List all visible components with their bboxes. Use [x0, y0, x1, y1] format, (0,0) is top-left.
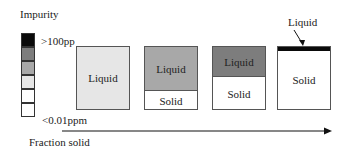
- legend-cell: [21, 103, 35, 117]
- legend-title: Impurity: [20, 9, 59, 20]
- stage-box-1: Liquid: [76, 46, 130, 110]
- solid-region: Solid: [278, 51, 330, 109]
- legend-high-label: >100pp: [41, 36, 75, 47]
- liquid-region: Liquid: [213, 47, 265, 76]
- liquid-region: Liquid: [145, 47, 197, 90]
- legend-cell: [21, 47, 35, 61]
- stage-box-3: Liquid Solid: [212, 46, 266, 110]
- stage-box-4: Solid: [277, 46, 331, 110]
- legend-cell: [21, 61, 35, 75]
- liquid-callout-label: Liquid: [288, 17, 317, 28]
- solid-region: Solid: [213, 76, 265, 110]
- legend-low-label: <0.01ppm: [42, 115, 87, 126]
- legend-cell: [21, 89, 35, 103]
- fraction-solid-arrow-icon: [60, 126, 335, 136]
- liquid-region: Liquid: [77, 47, 129, 109]
- axis-label: Fraction solid: [29, 137, 90, 148]
- stage-box-2: Liquid Solid: [144, 46, 198, 110]
- legend-cell: [21, 75, 35, 89]
- legend-cell: [21, 33, 35, 47]
- solid-region: Solid: [145, 90, 197, 110]
- callout-arrow-icon: [290, 28, 310, 48]
